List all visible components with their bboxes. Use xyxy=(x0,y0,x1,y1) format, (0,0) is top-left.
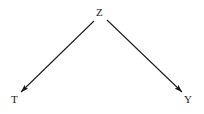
edge-z-to-t xyxy=(21,21,94,92)
causal-dag-figure: Z T Y xyxy=(0,0,204,114)
node-label-y: Y xyxy=(184,94,192,105)
node-label-z: Z xyxy=(96,7,103,18)
edge-z-to-y xyxy=(107,20,182,92)
node-label-t: T xyxy=(11,94,18,105)
